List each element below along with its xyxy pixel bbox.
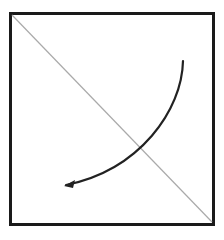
diagram-canvas [0, 0, 224, 240]
background [0, 0, 224, 240]
